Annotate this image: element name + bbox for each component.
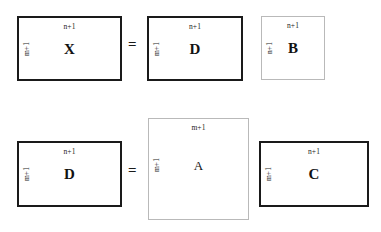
- matrix-x-cols-label: n+1: [19, 22, 120, 31]
- matrix-b-cols-label: n+1: [262, 21, 324, 30]
- matrix-d-top-cols-label: n+1: [149, 22, 241, 31]
- matrix-box-a: m+1 m+1 A: [148, 118, 249, 220]
- matrix-c-cols-label: n+1: [261, 147, 367, 156]
- matrix-box-d-bottom: n+1 m+1 D: [17, 141, 122, 207]
- matrix-c-symbol: C: [261, 167, 367, 182]
- equals-sign-top: =: [128, 37, 137, 52]
- diagram-canvas: n+1 m+1 X = n+1 m+1 D n+1 n+1 B n+1 m+1 …: [0, 0, 381, 232]
- matrix-d-bottom-symbol: D: [19, 167, 120, 182]
- matrix-d-bottom-cols-label: n+1: [19, 147, 120, 156]
- equals-sign-bottom: =: [128, 163, 137, 178]
- matrix-box-c: n+1 m+1 C: [259, 141, 369, 207]
- matrix-box-d-top: n+1 m+1 D: [147, 16, 243, 81]
- matrix-d-top-symbol: D: [149, 41, 241, 56]
- matrix-box-x: n+1 m+1 X: [17, 16, 122, 81]
- matrix-a-cols-label: m+1: [149, 123, 248, 132]
- matrix-a-symbol: A: [149, 159, 248, 172]
- matrix-box-b: n+1 n+1 B: [261, 16, 325, 80]
- matrix-b-symbol: B: [262, 41, 324, 56]
- matrix-x-symbol: X: [19, 41, 120, 56]
